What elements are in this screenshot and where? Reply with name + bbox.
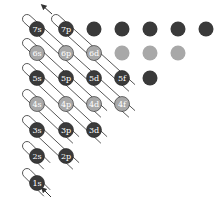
orbital-label: 6d [89, 49, 99, 58]
orbital-3s: 3s [30, 123, 45, 138]
orbital-label: 4s [32, 100, 41, 109]
orbital-4p: 4p [59, 97, 74, 112]
orbital-6d: 6d [87, 46, 102, 61]
orbital-label: 4p [61, 100, 71, 109]
orbital-7p: 7p [59, 22, 74, 37]
unlabeled-orbital-circle [115, 22, 130, 37]
orbital-6s: 6s [30, 46, 45, 61]
orbital-2p: 2p [59, 149, 74, 164]
orbital-3p: 3p [59, 123, 74, 138]
orbital-1s: 1s [30, 176, 45, 191]
unlabeled-orbital-circle [143, 46, 158, 61]
orbital-7s: 7s [30, 22, 45, 37]
unlabeled-orbital-circle [143, 71, 158, 86]
orbital-label: 4d [89, 100, 99, 109]
orbital-label: 5s [32, 74, 41, 83]
orbital-5s: 5s [30, 71, 45, 86]
orbital-4s: 4s [30, 97, 45, 112]
unlabeled-orbital-circle [87, 22, 102, 37]
orbital-label: 2p [61, 152, 71, 161]
orbital-5d: 5d [87, 71, 102, 86]
orbital-3d: 3d [87, 123, 102, 138]
orbital-label: 1s [32, 179, 41, 188]
orbital-5p: 5p [59, 71, 74, 86]
unlabeled-orbital-circle [115, 46, 130, 61]
orbital-label: 2s [32, 152, 41, 161]
orbital-6p: 6p [59, 46, 74, 61]
orbital-4d: 4d [87, 97, 102, 112]
orbital-label: 3s [32, 126, 41, 135]
orbital-filling-diagram: 7s7p6s6p6d5s5p5d5f4s4p4d4f3s3p3d2s2p1s [0, 0, 220, 202]
orbital-label: 4f [118, 100, 127, 109]
orbital-label: 5d [89, 74, 99, 83]
orbital-label: 6p [61, 49, 71, 58]
orbital-circles: 7s7p6s6p6d5s5p5d5f4s4p4d4f3s3p3d2s2p1s [30, 22, 214, 191]
unlabeled-orbital-circle [171, 22, 186, 37]
unlabeled-orbital-circle [171, 46, 186, 61]
orbital-label: 3p [61, 126, 71, 135]
unlabeled-orbital-circle [143, 22, 158, 37]
unlabeled-orbital-circle [199, 22, 214, 37]
start-arrow-icon [43, 189, 51, 197]
orbital-5f: 5f [115, 71, 130, 86]
orbital-label: 6s [32, 49, 41, 58]
orbital-label: 5p [61, 74, 71, 83]
orbital-label: 5f [118, 74, 127, 83]
orbital-4f: 4f [115, 97, 130, 112]
orbital-label: 7p [61, 25, 71, 34]
orbital-2s: 2s [30, 149, 45, 164]
orbital-label: 7s [32, 25, 41, 34]
end-arrow-icon [43, 6, 52, 14]
orbital-label: 3d [89, 126, 99, 135]
